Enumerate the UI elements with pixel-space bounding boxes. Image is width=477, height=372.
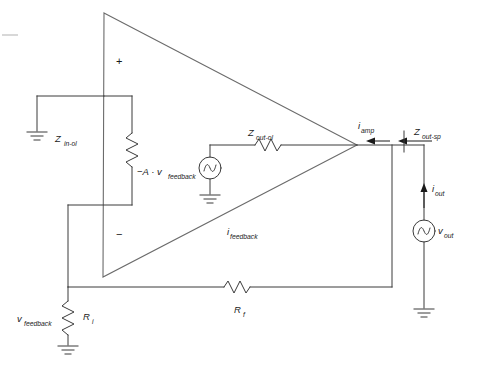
source-v-out bbox=[413, 220, 435, 242]
output-impedance-ol-branch: Z out-ol bbox=[247, 127, 357, 151]
label-i-feedback-subscript: feedback bbox=[230, 233, 258, 240]
resistor-z-in-ol bbox=[126, 133, 138, 167]
feedback-current-label: i feedback bbox=[227, 226, 258, 240]
source-gain bbox=[199, 157, 221, 179]
circuit-diagram: + − Z in-ol bbox=[0, 0, 477, 372]
label-v-out-subscript: out bbox=[444, 232, 455, 239]
opamp-minus-sign: − bbox=[116, 228, 122, 240]
label-r-f-subscript: f bbox=[243, 311, 246, 318]
label-v-feedback-subscript: feedback bbox=[24, 320, 52, 327]
label-v-feedback: v bbox=[17, 313, 23, 324]
ground-v-out bbox=[414, 309, 434, 317]
label-z-in-ol: Z bbox=[54, 133, 62, 144]
label-r-i: R bbox=[83, 311, 90, 322]
label-z-out-ol-subscript: out-ol bbox=[256, 134, 273, 141]
input-impedance-branch: Z in-ol bbox=[27, 96, 138, 205]
label-z-out-sp-subscript: out-sp bbox=[422, 133, 441, 141]
feedback-resistor-branch: R f bbox=[68, 281, 392, 318]
label-i-out-subscript: out bbox=[435, 190, 446, 197]
label-gain-source-subscript: feedback bbox=[168, 173, 196, 180]
arrow-i-amp bbox=[366, 138, 390, 145]
label-z-in-ol-subscript: in-ol bbox=[64, 140, 77, 147]
ground-gain-source bbox=[200, 195, 220, 203]
opamp-plus-sign: + bbox=[116, 55, 122, 67]
label-r-i-subscript: i bbox=[92, 318, 94, 325]
label-i-amp-subscript: amp bbox=[361, 127, 374, 135]
resistor-r-i bbox=[62, 301, 74, 335]
dependent-source-branch: −A · v feedback bbox=[137, 145, 255, 203]
arrow-i-out bbox=[421, 183, 428, 208]
label-z-out-sp: Z bbox=[413, 126, 421, 137]
ground-z-in-ol bbox=[27, 132, 47, 140]
ground-r-i bbox=[58, 346, 78, 354]
resistor-r-f bbox=[224, 281, 250, 293]
label-z-out-ol: Z bbox=[247, 127, 255, 138]
label-gain-source: −A · v bbox=[137, 166, 163, 177]
label-r-f: R bbox=[234, 304, 241, 315]
input-resistor-branch: v feedback R i bbox=[17, 287, 94, 354]
